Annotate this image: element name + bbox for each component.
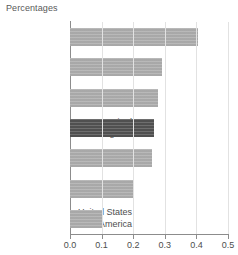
bar-chart: Percentages FranceCanadaJapanUnited King… xyxy=(0,0,238,255)
x-tick-label: 0.4 xyxy=(190,240,203,250)
gridline xyxy=(102,22,103,234)
plot-area: FranceCanadaJapanUnited KingdomGermanyIt… xyxy=(70,22,228,234)
chart-title: Percentages xyxy=(6,3,58,13)
x-tick xyxy=(165,235,166,239)
bar xyxy=(70,149,152,167)
gridline xyxy=(133,22,134,234)
x-tick-label: 0.3 xyxy=(159,240,172,250)
gridline xyxy=(165,22,166,234)
x-tick xyxy=(228,235,229,239)
gridline xyxy=(196,22,197,234)
x-tick xyxy=(133,235,134,239)
x-tick-label: 0.0 xyxy=(64,240,77,250)
x-tick-label: 0.5 xyxy=(222,240,235,250)
bar xyxy=(70,89,158,107)
bar xyxy=(70,58,162,76)
x-tick-label: 0.2 xyxy=(127,240,140,250)
x-tick xyxy=(102,235,103,239)
x-tick xyxy=(70,235,71,239)
x-axis-line xyxy=(70,234,229,235)
x-tick-label: 0.1 xyxy=(95,240,108,250)
x-tick xyxy=(196,235,197,239)
gridline xyxy=(228,22,229,234)
bar xyxy=(70,119,154,137)
bar xyxy=(70,210,102,228)
